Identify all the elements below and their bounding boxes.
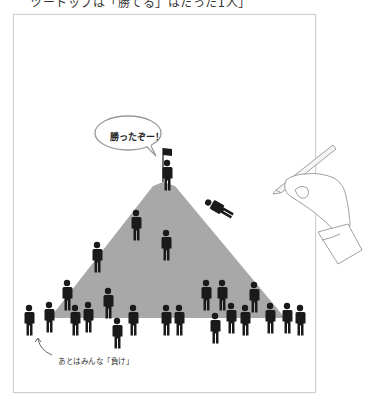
- illustration: [0, 0, 375, 407]
- bottom-caption: あとはみんな「負け」: [58, 355, 133, 366]
- hand-with-pencil-illustration: [273, 145, 362, 264]
- falling-figure: [203, 196, 235, 220]
- speech-bubble-text: 勝ったぞー！: [110, 130, 164, 143]
